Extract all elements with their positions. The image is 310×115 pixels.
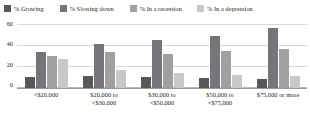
bar-group [17,22,75,88]
bar [163,54,173,88]
bar [232,75,242,88]
legend-label-growing: % Growing [14,5,44,12]
x-axis-labels: <$20,000$20,000 to<$30,000$30,000 to<$50… [17,90,307,114]
bar [94,44,104,88]
bar [83,76,93,88]
legend-item-slowing-down: % Slowing down [60,5,114,12]
x-axis-category-line: <$50,000 [133,99,191,107]
bar-group [249,22,307,88]
bar [47,56,57,88]
bar [174,73,184,88]
x-axis-category-label: $50,000 to<$75,000 [191,90,249,114]
legend-label-depression: % In a depression [207,5,253,12]
x-axis-line [17,88,307,89]
bar [36,52,46,88]
bar [290,76,300,88]
y-tick-0: 0 [0,82,13,88]
bar [210,36,220,88]
x-axis-category-line: <$20,000 [17,91,75,99]
bar-groups [17,22,307,88]
legend-swatch-depression [197,5,204,12]
x-axis-category-line: <$75,000 [191,99,249,107]
x-axis-category-label: $30,000 to<$50,000 [133,90,191,114]
legend-item-depression: % In a depression [197,5,253,12]
y-axis-labels: 0 20 40 60 [0,22,15,88]
chart-legend: % Growing % Slowing down % In a recessio… [0,2,310,14]
legend-label-slowing-down: % Slowing down [70,5,114,12]
bar-group [191,22,249,88]
x-axis-category-label: <$20,000 [17,90,75,114]
x-axis-category-line: <$30,000 [75,99,133,107]
legend-swatch-recession [130,5,137,12]
y-tick-20: 20 [0,62,13,68]
bar [25,77,35,88]
y-tick-60: 60 [0,21,13,27]
bar [221,51,231,88]
plot-area [17,22,307,88]
bar [152,40,162,88]
x-axis-category-line: $50,000 to [191,91,249,99]
x-axis-category-label: $75,000 or more [249,90,307,114]
legend-swatch-slowing-down [60,5,67,12]
x-axis-category-line: $20,000 to [75,91,133,99]
bar-group [75,22,133,88]
legend-label-recession: % In a recession [140,5,182,12]
x-axis-category-line: $75,000 or more [249,91,307,99]
x-axis-category-line: $30,000 to [133,91,191,99]
bar [268,28,278,88]
legend-item-growing: % Growing [4,5,44,12]
legend-item-recession: % In a recession [130,5,182,12]
bar [279,49,289,88]
bar [257,79,267,88]
y-tick-40: 40 [0,41,13,47]
bar [58,59,68,88]
bar [116,70,126,88]
bar [141,77,151,88]
bar [105,52,115,88]
chart-figure: % Growing % Slowing down % In a recessio… [0,0,310,115]
x-axis-category-label: $20,000 to<$30,000 [75,90,133,114]
bar-group [133,22,191,88]
legend-swatch-growing [4,5,11,12]
bar [199,78,209,88]
